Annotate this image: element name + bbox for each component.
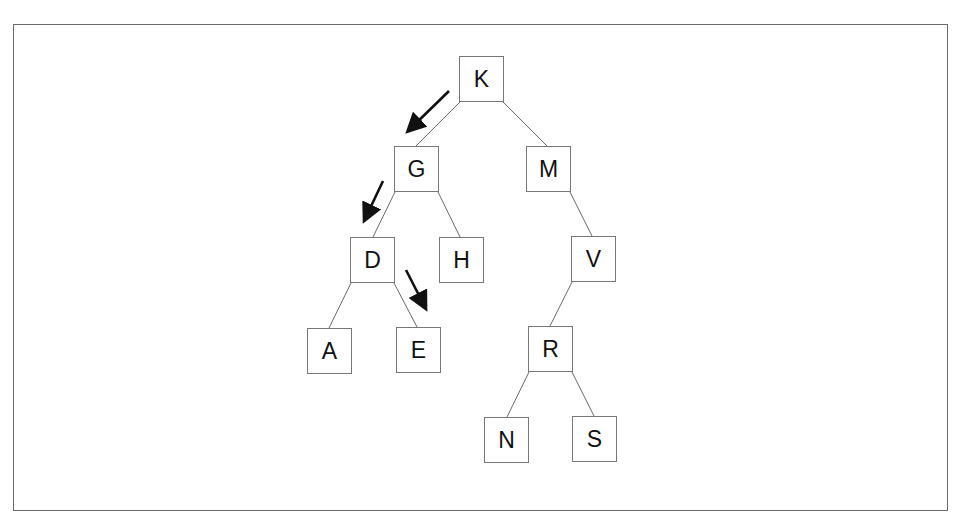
node-label: V (586, 246, 601, 273)
tree-node-V: V (571, 236, 616, 282)
edge-R-N (507, 372, 529, 417)
tree-node-R: R (528, 326, 573, 372)
node-label: G (408, 156, 426, 183)
tree-node-D: D (350, 237, 395, 283)
node-label: R (542, 336, 559, 363)
search-arrow-D-E (406, 270, 425, 307)
node-label: K (474, 66, 489, 93)
edge-D-A (329, 283, 351, 328)
tree-node-A: A (307, 328, 352, 374)
tree-node-E: E (396, 327, 441, 373)
tree-node-M: M (526, 146, 571, 192)
tree-node-N: N (484, 417, 529, 463)
node-label: M (539, 156, 558, 183)
edge-R-S (572, 372, 594, 416)
tree-node-S: S (572, 416, 617, 462)
tree-node-H: H (439, 237, 484, 283)
tree-node-G: G (394, 146, 439, 192)
search-arrow-G-D (365, 181, 383, 219)
node-label: D (364, 247, 381, 274)
edge-G-D (373, 192, 395, 237)
node-label: S (587, 426, 602, 453)
edge-V-R (550, 282, 572, 326)
node-label: E (411, 337, 426, 364)
tree-node-K: K (459, 56, 504, 102)
node-label: A (322, 338, 337, 365)
edge-K-M (503, 102, 547, 146)
edge-M-V (570, 192, 592, 236)
edge-D-E (394, 283, 417, 327)
edge-K-G (416, 102, 460, 146)
node-label: N (498, 427, 515, 454)
node-label: H (453, 247, 470, 274)
edge-G-H (438, 192, 460, 237)
search-arrow-K-G (409, 91, 449, 130)
